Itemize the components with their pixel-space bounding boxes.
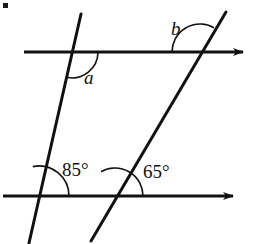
- arc-angle-65: [101, 168, 143, 196]
- angle-label-85-degrees: 85°: [62, 160, 89, 179]
- figure-canvas: [0, 0, 259, 244]
- angle-label-65-degrees: 65°: [143, 162, 170, 181]
- right-transversal-line: [91, 12, 226, 241]
- left-transversal-line: [29, 14, 81, 243]
- geometry-figure: a b 85° 65°: [0, 0, 259, 244]
- angle-label-a: a: [84, 68, 94, 87]
- angle-label-b: b: [171, 19, 181, 38]
